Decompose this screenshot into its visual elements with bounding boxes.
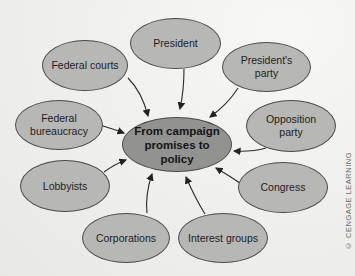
arrow-lobbyists (104, 160, 126, 172)
arrow-president (180, 69, 184, 109)
node-presidents-party: President's party (222, 42, 311, 92)
node-federal-bureaucracy: Federal bureaucracy (15, 100, 103, 150)
node-label: Federal courts (51, 59, 118, 72)
node-label: Interest groups (188, 232, 258, 245)
node-label: Opposition party (253, 113, 329, 139)
node-label: Lobbyists (43, 180, 87, 193)
node-corporations: Corporations (82, 213, 170, 263)
node-congress: Congress (238, 162, 328, 213)
diagram-canvas: President President's party Opposition p… (0, 0, 355, 276)
arrow-opposition-party (234, 148, 266, 151)
arrow-congress (216, 168, 240, 183)
copyright-credit: © CENGAGE LEARNING (344, 152, 353, 250)
node-label: Corporations (96, 232, 156, 245)
center-label: From campaign promises to policy (134, 124, 220, 166)
node-interest-groups: Interest groups (178, 213, 268, 263)
node-label: Congress (261, 181, 306, 194)
arrow-federal-courts (128, 78, 148, 116)
arrow-corporations (147, 174, 152, 213)
node-opposition-party: Opposition party (246, 100, 336, 152)
arrow-presidents-party (210, 88, 238, 117)
node-label: Federal bureaucracy (24, 112, 94, 138)
arrow-federal-bureaucracy (103, 126, 124, 133)
node-lobbyists: Lobbyists (20, 160, 110, 212)
node-center: From campaign promises to policy (122, 117, 232, 172)
arrow-interest-groups (186, 177, 205, 214)
node-president: President (130, 18, 221, 69)
node-label: President (153, 37, 197, 50)
node-federal-courts: Federal courts (42, 40, 128, 91)
node-label: President's party (229, 54, 304, 80)
